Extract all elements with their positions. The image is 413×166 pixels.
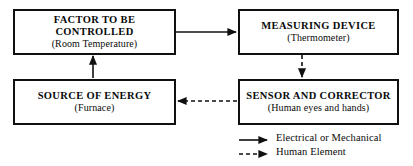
legend-item-electrical-or-mechanical: Electrical or Mechanical xyxy=(238,131,413,145)
node-source-of-energy[interactable]: SOURCE OF ENERGY (Furnace) xyxy=(13,79,176,125)
node-subtitle: (Furnace) xyxy=(75,102,115,114)
legend-item-label: Electrical or Mechanical xyxy=(272,132,382,144)
solid-arrow-icon xyxy=(238,132,272,144)
node-sensor-and-corrector[interactable]: SENSOR AND CORRECTOR (Human eyes and han… xyxy=(238,79,399,125)
diagram-canvas: FACTOR TO BE CONTROLLED (Room Temperatur… xyxy=(0,0,413,166)
node-subtitle: (Room Temperature) xyxy=(52,38,138,50)
node-title: SENSOR AND CORRECTOR xyxy=(246,90,391,102)
legend: Electrical or Mechanical Human Element xyxy=(238,131,413,159)
node-title: MEASURING DEVICE xyxy=(261,20,375,32)
node-measuring-device[interactable]: MEASURING DEVICE (Thermometer) xyxy=(238,9,399,55)
dashed-arrow-icon xyxy=(238,146,272,158)
node-subtitle: (Thermometer) xyxy=(287,32,349,44)
node-subtitle: (Human eyes and hands) xyxy=(268,102,369,114)
node-title: FACTOR TO BE CONTROLLED xyxy=(54,14,136,37)
node-factor-to-be-controlled[interactable]: FACTOR TO BE CONTROLLED (Room Temperatur… xyxy=(13,9,176,55)
legend-item-human-element: Human Element xyxy=(238,145,413,159)
legend-item-label: Human Element xyxy=(272,146,346,158)
node-title: SOURCE OF ENERGY xyxy=(38,90,152,102)
